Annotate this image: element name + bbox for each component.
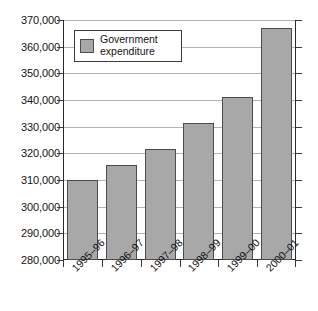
y-axis-tick-mark	[296, 73, 302, 74]
bar-chart: 280,000290,000300,000310,000320,000330,0…	[0, 0, 318, 311]
y-axis-tick-mark	[296, 153, 302, 154]
y-axis-tick-label: 330,000	[2, 121, 60, 132]
y-axis-tick-label: 290,000	[2, 228, 60, 239]
y-axis-tick-label: 340,000	[2, 95, 60, 106]
y-axis-tick-label: 350,000	[2, 68, 60, 79]
y-axis-tick-label: 280,000	[2, 255, 60, 266]
y-axis-tick-mark	[296, 260, 302, 261]
y-axis-tick-mark	[296, 20, 302, 21]
y-axis-tick-label: 300,000	[2, 201, 60, 212]
y-axis-tick-label: 320,000	[2, 148, 60, 159]
y-axis-tick-label: 360,000	[2, 41, 60, 52]
bar	[222, 97, 253, 260]
y-axis-tick-mark	[296, 47, 302, 48]
y-axis-tick-mark	[296, 233, 302, 234]
y-axis-tick-mark	[296, 180, 302, 181]
legend-swatch-government-expenditure	[80, 39, 94, 53]
y-axis-labels: 280,000290,000300,000310,000320,000330,0…	[0, 0, 60, 311]
y-axis-tick-mark	[296, 100, 302, 101]
y-axis-tick-label: 310,000	[2, 175, 60, 186]
bar	[261, 28, 292, 260]
y-axis-tick-label: 370,000	[2, 15, 60, 26]
x-axis-labels: 1995–961996–971997–981998–991999–002000–…	[63, 266, 318, 311]
legend-label-government-expenditure: Government expenditure	[100, 34, 174, 57]
chart-legend: Government expenditure	[74, 30, 182, 62]
y-axis-tick-mark	[296, 127, 302, 128]
y-axis-tick-mark	[296, 207, 302, 208]
